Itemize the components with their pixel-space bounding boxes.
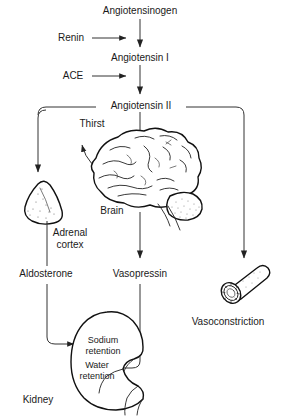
raas-diagram-page: Angiotensinogen Renin Angiotensin I ACE … xyxy=(0,0,284,420)
label-angiotensin-1: Angiotensin I xyxy=(111,52,169,63)
label-angiotensin-2: Angiotensin II xyxy=(111,100,172,111)
label-vasoconstriction: Vasoconstriction xyxy=(192,316,265,327)
label-thirst: Thirst xyxy=(80,118,105,129)
label-water-retention-line2: retention xyxy=(79,371,114,381)
label-adrenal-cortex-line1: Adrenal xyxy=(53,227,87,238)
label-adrenal-cortex-line2: cortex xyxy=(56,239,83,250)
label-angiotensinogen: Angiotensinogen xyxy=(103,5,178,16)
label-ace: ACE xyxy=(63,70,84,81)
label-water-retention-line1: Water xyxy=(85,360,109,370)
label-sodium-retention-line1: Sodium xyxy=(88,335,119,345)
label-kidney: Kidney xyxy=(23,394,54,405)
aldosterone-to-kidney-arrow xyxy=(47,284,74,344)
label-renin: Renin xyxy=(58,32,84,43)
label-vasopressin: Vasopressin xyxy=(113,268,167,279)
blood-vessel-illustration xyxy=(217,266,270,308)
label-brain: Brain xyxy=(100,205,123,216)
diagram-canvas: Angiotensinogen Renin Angiotensin I ACE … xyxy=(0,0,284,420)
label-sodium-retention-line2: retention xyxy=(85,346,120,356)
label-aldosterone: Aldosterone xyxy=(19,268,73,279)
adrenal-gland-illustration xyxy=(25,181,63,224)
